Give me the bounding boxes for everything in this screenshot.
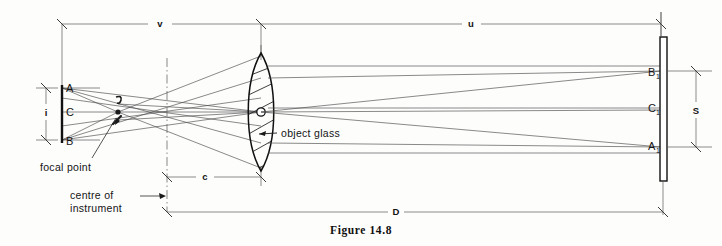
ray-A-to-lens-center (62, 88, 261, 112)
dimension-label-D: D (393, 206, 400, 217)
dimension-group-top: v u (57, 12, 666, 86)
staff-point-label-A: A (66, 82, 74, 94)
dimension-label-u: u (468, 18, 474, 29)
ray-group-left (62, 56, 261, 168)
ray-group-right (261, 66, 661, 153)
ray-B-to-lens-center (62, 112, 261, 140)
leader-arrow-centre-instrument (159, 193, 166, 199)
right-staff: B 1 C 1 A 1 (648, 12, 667, 215)
right-staff-label-C1: C 1 (648, 102, 660, 116)
staff-point-label-C: C (66, 106, 74, 118)
focal-point-annotation: focal point (40, 118, 120, 173)
ray-converge-A1 (268, 143, 661, 147)
right-staff-point-A: A (648, 140, 656, 152)
ray-A-lower (62, 88, 261, 143)
right-staff-point-B: B (648, 66, 655, 78)
ray-lens-to-C1 (261, 110, 661, 112)
right-staff-sub-B: 1 (656, 73, 660, 80)
figure-container: v u (0, 0, 722, 246)
right-staff-sub-A: 1 (656, 147, 660, 154)
right-staff-label-B1: B 1 (648, 66, 660, 80)
annotation-label-centre-line1: centre of (70, 189, 114, 201)
dimension-group-i: i (36, 83, 58, 145)
right-staff-point-C: C (648, 102, 656, 114)
dimension-label-v: v (157, 18, 163, 29)
focal-point-F-glyph (116, 96, 121, 103)
dimension-group-c: c (167, 171, 261, 182)
optical-ray-diagram: v u (0, 0, 722, 246)
ray-focus-to-lens-bottom (118, 112, 261, 168)
dimension-label-S: S (693, 105, 699, 116)
annotation-label-focal-point: focal point (40, 161, 91, 173)
dimension-group-S: S (668, 66, 712, 152)
dimension-group-D: D (167, 206, 668, 217)
centre-of-instrument-line (162, 58, 172, 217)
annotation-label-centre-line2: instrument (70, 202, 122, 214)
staff-point-label-B: B (66, 135, 73, 147)
ray-B-upper (62, 78, 261, 140)
right-staff-sub-C: 1 (656, 109, 660, 116)
dimension-label-c: c (202, 171, 207, 182)
lens-hatching (238, 62, 284, 180)
dimension-label-i: i (45, 107, 48, 118)
lens-label-object-glass: object glass (281, 127, 340, 139)
leader-line-focal-point (92, 118, 116, 158)
figure-caption: Figure 14.8 (0, 224, 722, 236)
right-staff-bar (660, 37, 667, 181)
centre-of-instrument-annotation: centre of instrument (70, 189, 166, 214)
right-staff-label-A1: A 1 (648, 140, 660, 154)
left-staff: A C B (62, 82, 74, 147)
